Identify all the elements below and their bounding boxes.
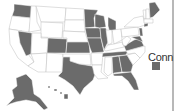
state-ct [144,23,148,27]
state-me [149,2,160,18]
state-mt [36,6,66,22]
state-ks [66,42,90,53]
state-oh [112,29,122,44]
state-hi-3 [60,92,62,94]
state-sd [64,20,85,32]
state-nm [46,53,63,72]
state-ak [6,74,48,110]
state-nj [139,28,143,36]
state-co [47,38,67,53]
state-ne [63,31,88,42]
state-ny [124,16,145,27]
state-ma [144,19,153,23]
state-nd [65,8,84,20]
legend-swatch [152,62,160,70]
state-ar [91,53,103,65]
state-wy [41,22,63,38]
state-pa [121,27,139,37]
state-hi [48,86,50,88]
state-ms [104,57,112,76]
state-hi-4 [64,94,68,99]
state-wi [95,14,106,28]
state-wa [12,4,32,18]
state-fl [113,72,139,90]
state-hi-2 [54,89,57,91]
us-map [0,0,172,111]
state-ia [85,28,101,38]
